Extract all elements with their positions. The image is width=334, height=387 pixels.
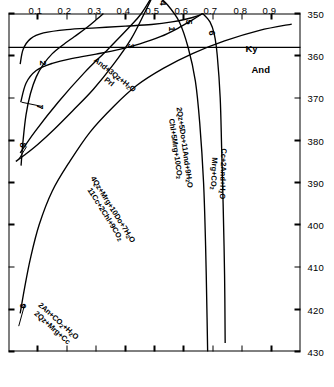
tick-mark	[294, 139, 300, 141]
tick-mark	[8, 181, 14, 183]
tick-mark	[294, 54, 300, 56]
tick-label-temperature: 380	[307, 135, 323, 146]
tick-label-xco2: 0.2	[57, 4, 71, 15]
reaction-curve	[20, 0, 154, 152]
reaction-curve	[21, 13, 103, 165]
curve-number-6: 6	[206, 30, 216, 35]
tick-label-temperature: 400	[307, 219, 323, 230]
rxn-label-cc-and: Cc+2And+H2OMrg+CO2	[208, 148, 228, 200]
tick-mark	[8, 266, 14, 268]
reaction-curve	[15, 0, 154, 161]
tick-label-xco2: 0.1	[28, 4, 42, 15]
tick-mark	[153, 345, 155, 351]
tick-mark	[8, 12, 14, 14]
tick-mark	[8, 139, 14, 141]
tick-mark	[95, 345, 97, 351]
curve-number-3: 3	[125, 43, 135, 48]
curve-number-8: 8	[17, 142, 27, 147]
tick-label-xco2: 0.7	[203, 4, 217, 15]
tick-mark	[8, 54, 14, 56]
x-axis-title: X (CO2) at P=2000 bars	[169, 0, 286, 1]
curve-number-4: 4	[157, 0, 167, 5]
reaction-curve	[20, 24, 292, 313]
phase-label-and: And	[251, 63, 269, 74]
tick-label-temperature: 390	[307, 177, 323, 188]
tick-label-temperature: 430	[307, 346, 323, 357]
tick-mark	[294, 223, 300, 225]
tick-mark	[270, 345, 272, 351]
tick-mark	[36, 345, 38, 351]
phase-label-ky: Ky	[245, 42, 257, 53]
curve-number-7: 7	[34, 104, 44, 109]
tick-mark	[8, 97, 14, 99]
tick-label-temperature: 410	[307, 262, 323, 273]
curve-number-9: 9	[17, 303, 27, 308]
curve-number-1: 1	[166, 26, 176, 31]
rxn-label-cc-and-line1: Cc+2And+H2O	[217, 148, 228, 199]
tick-label-xco2: 0.4	[116, 4, 130, 15]
tick-mark	[294, 308, 300, 310]
curve-number-2: 2	[37, 60, 47, 65]
tick-label-temperature: 370	[307, 93, 323, 104]
tick-mark	[294, 181, 300, 183]
rotated-plot-canvas: 3503603703803904004104204300.10.20.30.40…	[0, 0, 334, 387]
reaction-curve	[20, 13, 203, 64]
x-title-sub: 2	[199, 0, 203, 1]
curve-number-5: 5	[183, 19, 193, 24]
tick-label-xco2: 0.6	[174, 4, 188, 15]
tick-mark	[294, 266, 300, 268]
tick-label-xco2: 0.9	[262, 4, 276, 15]
tick-label-temperature: 420	[307, 304, 323, 315]
tick-mark	[294, 12, 300, 14]
tick-label-xco2: 0.3	[87, 4, 101, 15]
tick-mark	[8, 223, 14, 225]
tick-mark	[294, 350, 300, 352]
tick-label-temperature: 360	[307, 50, 323, 61]
tick-label-temperature: 350	[307, 8, 323, 19]
tick-label-xco2: 0.5	[145, 4, 159, 15]
tick-mark	[124, 345, 126, 351]
tick-mark	[241, 345, 243, 351]
tick-mark	[294, 97, 300, 99]
tick-mark	[212, 345, 214, 351]
tick-mark	[182, 345, 184, 351]
phase-diagram-figure: 3503603703803904004104204300.10.20.30.40…	[0, 0, 334, 387]
tick-mark	[8, 308, 14, 310]
tick-label-xco2: 0.8	[233, 4, 247, 15]
tick-mark	[8, 350, 14, 352]
